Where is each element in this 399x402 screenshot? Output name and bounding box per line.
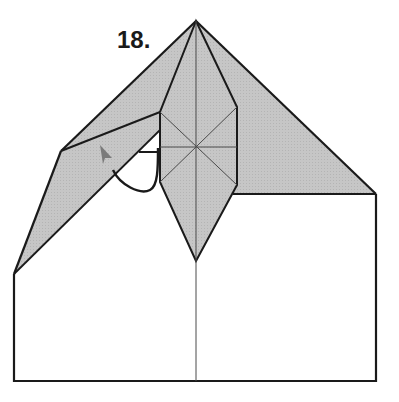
origami-diagram: 18. (0, 0, 399, 402)
diagram-canvas (0, 0, 399, 402)
